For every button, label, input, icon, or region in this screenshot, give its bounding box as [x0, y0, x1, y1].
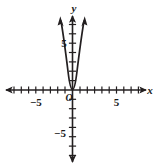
graph-canvas: x y O −5 5 5 −5: [0, 0, 161, 167]
parabola-right-arrowhead: [81, 16, 87, 26]
coordinate-plane-figure: x y O −5 5 5 −5: [0, 0, 161, 167]
parabola-left-arrowhead: [58, 16, 64, 26]
x-tick-label-5: 5: [114, 96, 120, 108]
x-axis-label: x: [146, 84, 153, 96]
y-axis-label: y: [70, 2, 77, 14]
origin-label: O: [65, 92, 72, 103]
y-tick-label-5: 5: [61, 37, 67, 49]
x-tick-label-neg-5: −5: [30, 96, 42, 108]
y-tick-label-neg-5: −5: [54, 127, 66, 139]
